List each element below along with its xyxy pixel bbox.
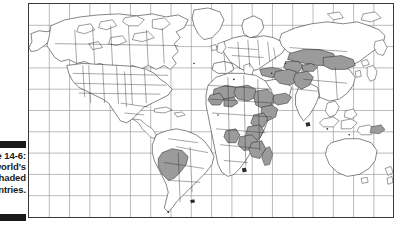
caption-marker-bar-bottom: [0, 214, 26, 221]
caption-marker-bar-top: [0, 141, 26, 148]
map-frame: [28, 3, 394, 218]
world-map-figure: [28, 0, 395, 229]
landmass-africa: [206, 73, 278, 176]
figure-caption-column: Figure 14-6: The world's shaded countrie…: [0, 0, 28, 229]
figure-caption-text: Figure 14-6: The world's shaded countrie…: [0, 150, 26, 195]
landmass-south-america: [152, 129, 214, 212]
highlight-papua-new-guinea: [370, 125, 385, 134]
world-map-svg: [29, 4, 393, 217]
highlight-yemen-oman: [272, 93, 292, 105]
landmass-oceania: [319, 101, 393, 184]
landmass-north-america: [29, 8, 224, 139]
